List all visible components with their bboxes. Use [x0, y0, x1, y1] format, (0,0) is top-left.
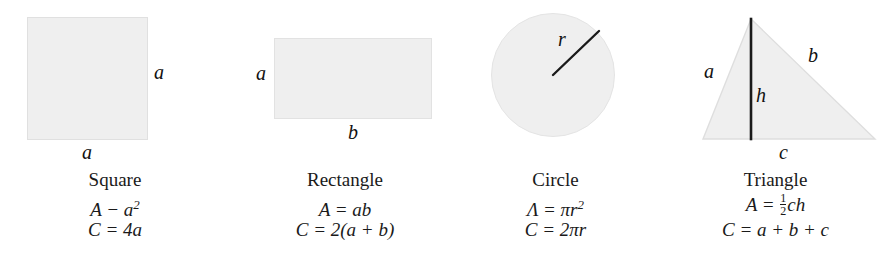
triangle-area-formula-suffix: ch — [787, 194, 805, 215]
rectangle-perimeter-formula: C = 2(a + b) — [230, 217, 460, 242]
geometry-formula-figure: a a Square A − a2 C = 4a a b Rectangle A… — [0, 0, 891, 263]
rectangle-side-label-left: a — [256, 63, 266, 83]
triangle-area-fraction-numerator: 1 — [780, 192, 786, 204]
square-shape — [27, 17, 148, 140]
triangle-perimeter-formula: C = a + b + c — [660, 217, 891, 242]
triangle-side-label-a: a — [704, 61, 714, 81]
square-area-exponent: 2 — [133, 197, 139, 212]
circle-radius-line — [440, 0, 671, 165]
panel-circle: r Circle Λ = πr2 C = 2πr — [440, 0, 671, 263]
triangle-height-label: h — [756, 85, 766, 105]
rectangle-shape-area: a b — [230, 0, 460, 165]
circle-perimeter-formula: C = 2πr — [440, 217, 671, 242]
rectangle-caption-name: Rectangle — [230, 167, 460, 192]
circle-area-exponent: 2 — [577, 197, 583, 212]
rectangle-side-label-bottom: b — [348, 122, 358, 142]
panel-square: a a Square A − a2 C = 4a — [0, 0, 230, 263]
circle-shape-area: r — [440, 0, 671, 165]
triangle-side-label-b: b — [808, 45, 818, 65]
triangle-base-label: c — [779, 142, 788, 162]
panel-rectangle: a b Rectangle A = ab C = 2(a + b) — [230, 0, 460, 263]
square-perimeter-formula: C = 4a — [0, 217, 230, 242]
triangle-area-formula: A = 12ch — [660, 192, 891, 217]
square-side-label-bottom: a — [82, 142, 92, 162]
triangle-shape — [660, 0, 891, 165]
panel-triangle: a b h c Triangle A = 12ch C = a + b + c — [660, 0, 891, 263]
triangle-caption-name: Triangle — [660, 167, 891, 192]
circle-caption-name: Circle — [440, 167, 671, 192]
triangle-shape-area: a b h c — [660, 0, 891, 165]
square-shape-area: a a — [0, 0, 230, 165]
square-side-label-right: a — [154, 62, 164, 82]
circle-radius-label: r — [558, 29, 566, 49]
rectangle-shape — [274, 38, 432, 119]
square-caption-name: Square — [0, 167, 230, 192]
triangle-area-formula-prefix: A = — [746, 194, 780, 215]
triangle-area-fraction: 12 — [780, 192, 786, 217]
triangle-area-fraction-denominator: 2 — [780, 204, 786, 217]
